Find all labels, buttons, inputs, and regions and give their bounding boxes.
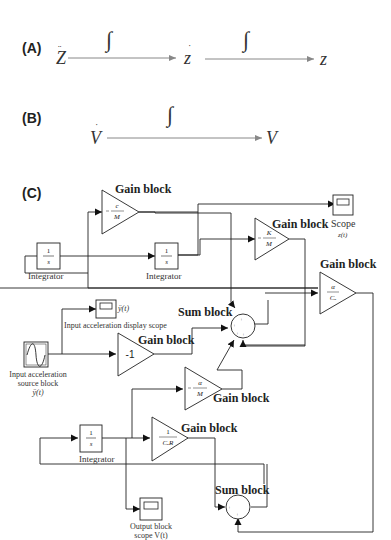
gain-1-cer-title: Gain block: [181, 421, 237, 436]
svg-text:+: +: [240, 317, 243, 322]
double-dot-mark: ¨: [58, 44, 61, 55]
gain-alpha-ce-title: Gain block: [320, 257, 376, 272]
svg-text:1: 1: [89, 429, 93, 437]
output-scope-line2: scope V(t): [124, 531, 178, 540]
v-dot-mark: ˙: [95, 122, 98, 133]
svg-text:α: α: [198, 379, 202, 387]
dot-mark: ˙: [188, 43, 191, 54]
svg-text:CₑR: CₑR: [163, 439, 175, 447]
scope-z-sub: z(t): [338, 231, 347, 239]
integrator-3-label: Integrator: [79, 454, 114, 464]
svg-text:M: M: [113, 213, 121, 221]
output-scope-line1: Output block: [124, 522, 178, 531]
integrator-block-2[interactable]: 1 s: [155, 243, 178, 269]
svg-text:1: 1: [166, 428, 170, 436]
gain-c-m-title: Gain block: [115, 182, 171, 197]
panel-a-label: (A): [22, 40, 41, 56]
svg-text:1: 1: [165, 247, 169, 255]
svg-text:α: α: [331, 283, 335, 291]
svg-text:Cₑ: Cₑ: [330, 294, 337, 302]
sum-block-2[interactable]: + +: [226, 495, 250, 519]
gain-neg1-title: Gain block: [138, 333, 194, 348]
svg-text:M: M: [265, 240, 273, 248]
source-label: Input acceleration source block ÿ(t): [8, 370, 68, 397]
integral-sign-1: ∫: [106, 27, 112, 53]
panel-b-label: (B): [22, 110, 41, 126]
gain-alpha-m-title: Gain block: [213, 391, 269, 406]
panel-c-label: (C): [22, 185, 41, 201]
scope-z[interactable]: [333, 195, 353, 215]
scope-z-label: Scope: [331, 218, 355, 229]
svg-text:+: +: [233, 323, 236, 328]
source-label-line2: source block: [8, 379, 68, 388]
scope-output[interactable]: [140, 498, 162, 520]
scope-input-label: Input acceleration display scope: [64, 321, 167, 330]
svg-text:+: +: [242, 332, 245, 337]
svg-text:+: +: [228, 505, 231, 510]
sum-block-1[interactable]: + + + +: [231, 314, 255, 338]
svg-text:-1: -1: [126, 349, 135, 360]
output-scope-label: Output block scope V(t): [124, 522, 178, 540]
scope-input[interactable]: [96, 300, 116, 318]
svg-text:s: s: [165, 258, 168, 266]
source-label-sub: ÿ(t): [8, 388, 68, 397]
gain-block-alpha-ce[interactable]: α Cₑ: [320, 272, 356, 314]
svg-text:+: +: [236, 331, 239, 336]
z-symbol: z: [320, 49, 327, 70]
integrator-2-label: Integrator: [146, 271, 181, 281]
integrator-block-1[interactable]: 1 s: [37, 243, 60, 269]
integral-sign-b: ∫: [167, 102, 173, 128]
svg-text:M: M: [196, 390, 204, 398]
integral-sign-2: ∫: [243, 27, 249, 53]
svg-text:K: K: [266, 229, 272, 237]
integrator-1-label: Integrator: [28, 271, 63, 281]
sum-block-2-title: Sum block: [215, 483, 269, 498]
integrator-block-3[interactable]: 1 s: [80, 425, 102, 452]
v-symbol: V: [266, 128, 277, 149]
svg-text:1: 1: [47, 247, 51, 255]
sum-block-1-title: Sum block: [178, 305, 232, 320]
sine-source-block[interactable]: [24, 342, 48, 367]
svg-text:+: +: [236, 512, 239, 517]
svg-text:s: s: [47, 258, 50, 266]
source-label-line1: Input acceleration: [8, 370, 68, 379]
svg-text:s: s: [90, 440, 93, 448]
gain-k-m-title: Gain block: [272, 217, 328, 232]
scope-input-sub: ÿ(t): [118, 304, 129, 313]
